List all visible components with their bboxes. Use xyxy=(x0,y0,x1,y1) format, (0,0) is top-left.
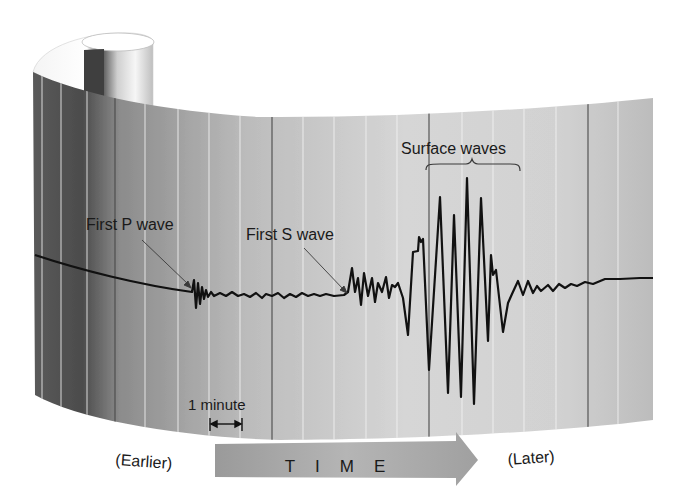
first-p-wave-label: First P wave xyxy=(86,217,174,233)
one-minute-label: 1 minute xyxy=(188,397,246,412)
time-label: TIME xyxy=(215,458,475,475)
surface-waves-label: Surface waves xyxy=(401,141,506,157)
first-s-wave-label: First S wave xyxy=(246,227,334,243)
later-label: (Later) xyxy=(507,449,555,468)
seismogram-paper xyxy=(33,60,653,460)
seismogram-diagram xyxy=(0,0,677,502)
